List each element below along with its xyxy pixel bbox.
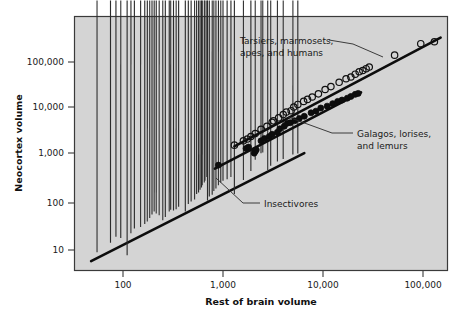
data-point xyxy=(246,144,252,150)
y-tick-label-10: 10 xyxy=(53,245,65,255)
y-tick-label-100000: 100,000 xyxy=(27,57,64,67)
x-tick-label-100: 100 xyxy=(114,280,131,290)
data-point xyxy=(215,162,221,168)
y-tick-label-100: 100 xyxy=(47,198,64,208)
y-axis-title: Neocortex volume xyxy=(13,94,24,191)
x-tick-label-10000: 10,000 xyxy=(307,280,339,290)
scatter-plot: 100,000 10,000 1,000 100 10 100 1,000 10… xyxy=(0,0,463,314)
x-axis-ticks xyxy=(123,271,423,277)
data-point xyxy=(318,105,324,111)
data-point xyxy=(301,113,307,119)
annotation-insectivores-line1: Insectivores xyxy=(264,199,318,209)
data-point xyxy=(253,147,259,153)
annotation-strepsirrhines-line2: and lemurs xyxy=(357,141,408,151)
data-point xyxy=(324,103,330,109)
annotation-strepsirrhines-line1: Galagos, lorises, xyxy=(357,129,431,139)
x-axis-title: Rest of brain volume xyxy=(205,296,317,307)
figure-container: 100,000 10,000 1,000 100 10 100 1,000 10… xyxy=(0,0,463,314)
y-tick-label-1000: 1,000 xyxy=(38,148,64,158)
y-tick-label-10000: 10,000 xyxy=(33,102,65,112)
x-tick-label-100000: 100,000 xyxy=(404,280,441,290)
x-tick-label-1000: 1,000 xyxy=(210,280,236,290)
annotation-primates-line1: Tarsiers, marmosets, xyxy=(239,36,333,46)
data-point xyxy=(355,90,361,96)
annotation-primates-line2: apes, and humans xyxy=(240,48,323,58)
